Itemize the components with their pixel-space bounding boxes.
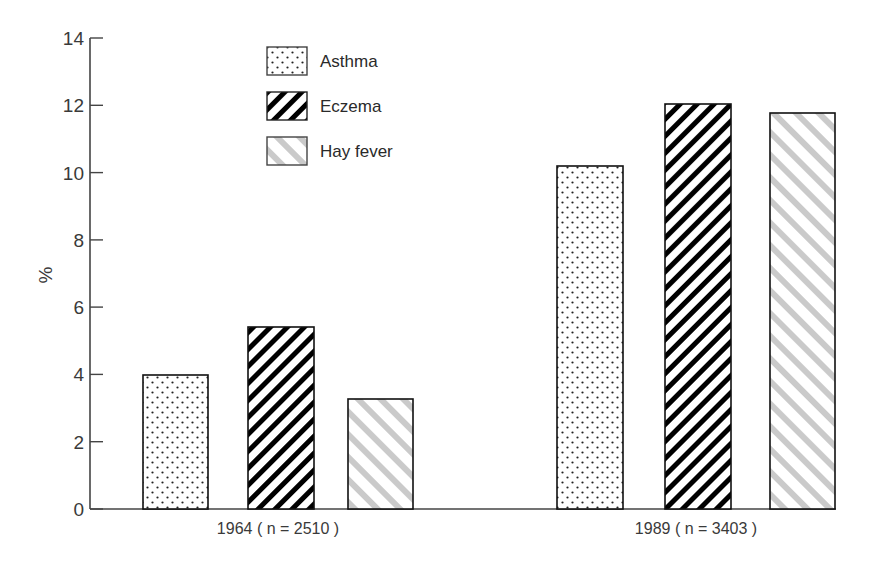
x-category-label-1989: 1989 ( n = 3403 ) [635,520,757,537]
y-tick-label: 0 [73,499,84,520]
bar-group-1989 [557,104,835,509]
legend-label: Eczema [320,97,382,116]
bar-eczema-1989 [665,104,731,509]
bar-hayfever-1964 [348,399,413,509]
y-tick-label: 14 [63,28,85,49]
legend-label: Hay fever [320,142,393,161]
legend-swatch-black-stripes [267,92,307,120]
legend-swatch-gray-stripes [267,137,307,165]
y-axis: 0 2 4 6 8 10 12 14 % [35,28,103,520]
y-tick-label: 8 [73,230,84,251]
legend: Asthma Eczema Hay fever [267,47,393,165]
y-tick-label: 10 [63,163,84,184]
y-tick-label: 2 [73,432,84,453]
y-tick-label: 6 [73,297,84,318]
y-tick-labels: 0 2 4 6 8 10 12 14 [63,28,85,520]
legend-label: Asthma [320,52,378,71]
y-axis-label: % [35,266,56,283]
legend-item-hayfever: Hay fever [267,137,393,165]
legend-item-eczema: Eczema [267,92,382,120]
y-tick-label: 12 [63,95,84,116]
bar-hayfever-1989 [770,113,835,509]
y-tick-label: 4 [73,364,84,385]
bar-group-1964 [143,327,413,509]
y-ticks [90,38,103,509]
bar-eczema-1964 [248,327,314,509]
chart: 0 2 4 6 8 10 12 14 % 1964 ( n = 2510 ) 1… [0,0,881,562]
bar-asthma-1964 [143,375,208,509]
bar-asthma-1989 [557,166,623,509]
legend-item-asthma: Asthma [267,47,378,75]
x-category-label-1964: 1964 ( n = 2510 ) [217,520,339,537]
legend-swatch-dots [267,47,307,75]
